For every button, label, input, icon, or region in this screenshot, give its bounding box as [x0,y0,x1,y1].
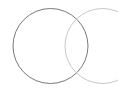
right-circle [65,9,118,84]
left-circle [13,9,88,84]
venn-diagram [0,0,118,95]
